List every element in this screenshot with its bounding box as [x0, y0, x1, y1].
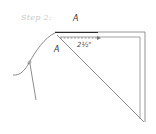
pin-shaft [30, 64, 36, 100]
measurement-label: 2½" [77, 41, 91, 49]
diagonal-fold-line [57, 35, 144, 122]
outer-fabric-edge [55, 32, 145, 122]
fabric-curve [13, 33, 55, 75]
step-label: Step 2: [21, 13, 52, 22]
point-a-top-label: A [73, 14, 78, 23]
point-a-fold-label: A [54, 45, 59, 54]
sewing-fold-diagram: Step 2: A A 2½" [0, 0, 156, 134]
